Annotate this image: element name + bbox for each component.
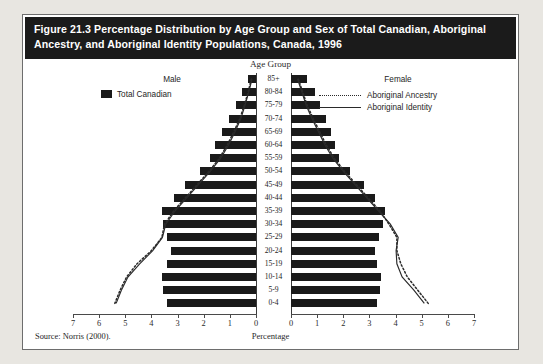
tick-label-ticks-left-2: 2 (194, 319, 214, 328)
tick-label-ticks-left-3: 3 (168, 319, 188, 328)
legend-aboriginal-identity-label: Aboriginal Identity (367, 103, 432, 112)
legend-female-header: Female (323, 75, 473, 84)
legend-aboriginal-identity: Aboriginal Identity (319, 103, 432, 112)
tick-ticks-left-6 (99, 314, 100, 318)
tick-ticks-left-4 (151, 314, 152, 318)
legend-total-canadian: Total Canadian (101, 90, 227, 99)
legend-aboriginal-ancestry-label: Aboriginal Ancestry (367, 91, 437, 100)
tick-label-ticks-left-5: 5 (115, 319, 135, 328)
tick-ticks-right-1 (317, 314, 318, 318)
tick-label-ticks-right-7: 7 (464, 319, 484, 328)
tick-label-ticks-right-2: 2 (333, 319, 353, 328)
trend-line-aboriginal-identity-male (116, 79, 252, 303)
tick-label-ticks-right-5: 5 (412, 319, 432, 328)
legend-male-header: Male (117, 75, 227, 84)
tick-label-ticks-left-0: 0 (246, 319, 266, 328)
tick-ticks-right-3 (369, 314, 370, 318)
trend-line-aboriginal-ancestry-male (115, 79, 251, 303)
tick-ticks-right-4 (396, 314, 397, 318)
tick-ticks-left-1 (230, 314, 231, 318)
trend-line-aboriginal-ancestry-female (298, 79, 428, 303)
tick-label-ticks-left-4: 4 (141, 319, 161, 328)
solid-line-sample-icon (319, 103, 361, 111)
trend-line-aboriginal-identity-female (298, 79, 425, 303)
dotted-line-sample-icon (319, 91, 361, 99)
tick-label-ticks-right-1: 1 (307, 319, 327, 328)
tick-label-ticks-right-0: 0 (281, 319, 301, 328)
tick-label-ticks-right-4: 4 (386, 319, 406, 328)
figure-container: Figure 21.3 Percentage Distribution by A… (22, 14, 519, 350)
tick-ticks-right-5 (422, 314, 423, 318)
tick-ticks-right-0 (291, 314, 292, 318)
tick-ticks-right-2 (343, 314, 344, 318)
tick-label-ticks-left-7: 7 (63, 319, 83, 328)
legend-total-canadian-label: Total Canadian (117, 90, 172, 99)
tick-ticks-left-5 (125, 314, 126, 318)
source-note: Source: Norris (2000). (35, 332, 111, 341)
black-square-swatch-icon (101, 90, 112, 98)
tick-label-ticks-right-6: 6 (438, 319, 458, 328)
tick-ticks-left-7 (73, 314, 74, 318)
tick-ticks-left-3 (178, 314, 179, 318)
figure-title: Figure 21.3 Percentage Distribution by A… (25, 17, 516, 59)
trend-lines-overlay (23, 61, 518, 349)
tick-label-ticks-left-6: 6 (89, 319, 109, 328)
legend-aboriginal-ancestry: Aboriginal Ancestry (319, 91, 437, 100)
chart-plot-area: Age Group 85+80-8475-7970-7465-6960-6455… (23, 61, 518, 349)
tick-ticks-right-7 (474, 314, 475, 318)
tick-label-ticks-left-1: 1 (220, 319, 240, 328)
tick-label-ticks-right-3: 3 (359, 319, 379, 328)
tick-ticks-left-0 (256, 314, 257, 318)
tick-ticks-right-6 (448, 314, 449, 318)
tick-ticks-left-2 (204, 314, 205, 318)
